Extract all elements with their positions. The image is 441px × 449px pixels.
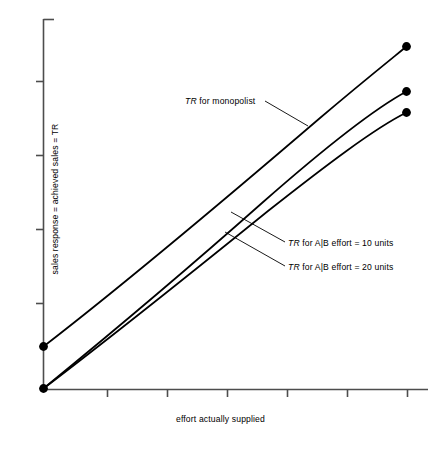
annotation-ab-10-rest: for A|B effort = 10 units (300, 238, 394, 248)
y-axis-title: sales response = achieved sales = TR (50, 124, 60, 275)
x-axis-title: effort actually supplied (0, 414, 441, 424)
chart-container: TR for monopolist TR for A|B effort = 10… (0, 0, 441, 449)
y-axis-ticks (36, 82, 44, 304)
leader-line-monopolist (265, 101, 308, 126)
x-axis-ticks (108, 390, 408, 398)
curve-ab-20 (44, 113, 407, 389)
annotation-label-ab-10: TR for A|B effort = 10 units (288, 238, 393, 248)
annotation-ab-20-rest: for A|B effort = 20 units (300, 262, 394, 272)
annotation-label-ab-20: TR for A|B effort = 20 units (288, 262, 393, 272)
curve-monopolist (44, 47, 407, 347)
marker-ab-10-end (402, 87, 411, 96)
chart-plot-area (0, 0, 441, 449)
marker-monopolist-start (39, 342, 48, 351)
annotation-label-monopolist: TR for monopolist (185, 96, 255, 106)
marker-ab-20-end (402, 108, 411, 117)
annotation-monopolist-tr: TR (185, 96, 197, 106)
annotation-ab-20-tr: TR (288, 262, 300, 272)
marker-monopolist-end (402, 42, 411, 51)
annotation-monopolist-rest: for monopolist (197, 96, 256, 106)
leader-line-ab-10 (231, 212, 285, 242)
y-axis-title-wrapper: sales response = achieved sales = TR (44, 69, 64, 329)
axis-lines (44, 19, 429, 390)
annotation-ab-10-tr: TR (288, 238, 300, 248)
data-point-markers (39, 42, 411, 393)
marker-origin (39, 384, 48, 393)
